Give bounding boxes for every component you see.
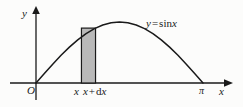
sine-curve [36, 22, 203, 83]
curve-equation-argument: x [172, 17, 177, 29]
element-label-plus: + [88, 85, 96, 97]
curve-equation-equals: = [151, 17, 159, 29]
x-tick-label-pi: π [199, 86, 204, 96]
y-axis-label: y [22, 8, 27, 19]
element-label-differential-var: x [102, 85, 107, 97]
x-axis-label: x [219, 86, 224, 97]
x-axis-arrowhead-icon [224, 79, 233, 87]
y-axis-arrowhead-icon [32, 6, 40, 14]
curve-equation-function: sin [159, 17, 172, 29]
curve-equation-label: y=sinx [146, 18, 177, 29]
sine-integral-figure: y O π x y=sinx xx+dx [0, 0, 243, 107]
plot-canvas [0, 0, 243, 107]
differential-element-label: xx+dx [74, 86, 106, 97]
element-left-edge-label: x [74, 85, 79, 97]
origin-label: O [27, 85, 35, 96]
